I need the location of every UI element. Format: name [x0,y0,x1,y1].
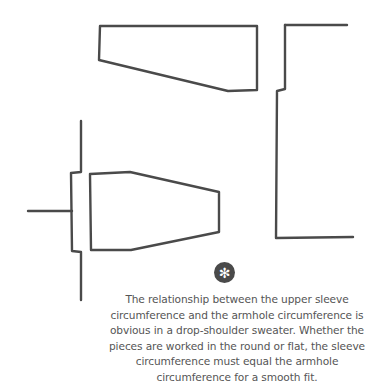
upper-body-piece [99,26,257,91]
asterisk-icon: ✻ [214,262,235,283]
diagram-caption: The relationship between the upper sleev… [100,292,374,386]
sleeve-piece [90,172,219,250]
asterisk-glyph: ✻ [219,266,231,280]
right-body-side-edge [276,25,353,238]
